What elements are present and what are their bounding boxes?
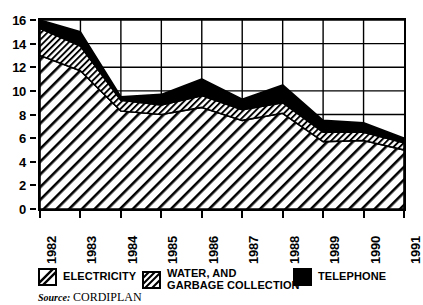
y-tick-label: 14 xyxy=(12,37,26,50)
x-tick-mark xyxy=(120,211,122,218)
y-tick-mark xyxy=(30,161,36,163)
plot-panel xyxy=(38,18,406,211)
x-tick-label: 1990 xyxy=(369,236,382,264)
stacked-area-svg xyxy=(40,20,404,209)
x-tick-mark xyxy=(322,211,324,218)
y-tick-mark xyxy=(30,137,36,139)
y-tick-label: 6 xyxy=(19,132,26,145)
source-label: Source: xyxy=(38,292,70,303)
legend-swatch-diagonal-hatch-dense-icon xyxy=(142,271,161,289)
source-value: CORDIPLAN xyxy=(73,290,142,304)
x-tick-mark xyxy=(160,211,162,218)
x-tick-mark xyxy=(282,211,284,218)
legend-label: TELEPHONE xyxy=(318,271,386,283)
x-tick-mark xyxy=(39,211,41,218)
y-tick-label: 8 xyxy=(19,108,26,121)
legend-item: ELECTRICITY xyxy=(38,268,136,286)
y-tick-label: 10 xyxy=(12,84,26,97)
x-tick-mark xyxy=(403,211,405,218)
x-tick-label: 1983 xyxy=(85,236,98,264)
y-tick-mark xyxy=(30,114,36,116)
y-tick-mark xyxy=(30,19,36,21)
chart-legend: ELECTRICITYWATER, AND GARBAGE COLLECTION… xyxy=(0,268,416,292)
y-tick-label: 2 xyxy=(19,179,26,192)
plot-area: 0246810121416 1982198319841985198 xyxy=(0,0,416,230)
x-tick-label: 1989 xyxy=(328,236,341,264)
y-tick-mark xyxy=(30,208,36,210)
legend-item: TELEPHONE xyxy=(293,268,386,286)
x-tick-label: 1986 xyxy=(207,236,220,264)
legend-item: WATER, AND GARBAGE COLLECTION xyxy=(142,268,300,291)
y-tick-mark xyxy=(30,43,36,45)
x-tick-label: 1984 xyxy=(126,236,139,264)
legend-label: ELECTRICITY xyxy=(63,271,136,283)
x-tick-label: 1988 xyxy=(288,236,301,264)
y-tick-mark xyxy=(30,90,36,92)
legend-label: WATER, AND GARBAGE COLLECTION xyxy=(167,268,300,291)
y-tick-mark xyxy=(30,184,36,186)
x-tick-mark xyxy=(79,211,81,218)
x-tick-label: 1985 xyxy=(166,236,179,264)
y-tick-mark xyxy=(30,66,36,68)
x-tick-label: 1987 xyxy=(247,236,260,264)
x-tick-label: 1991 xyxy=(409,236,422,264)
x-tick-mark xyxy=(363,211,365,218)
legend-swatch-solid-black-icon xyxy=(293,268,312,286)
x-tick-label: 1982 xyxy=(45,236,58,264)
y-tick-label: 16 xyxy=(12,14,26,27)
legend-swatch-diagonal-hatch-wide-icon xyxy=(38,268,57,286)
y-tick-label: 4 xyxy=(19,155,26,168)
x-tick-mark xyxy=(241,211,243,218)
y-axis: 0246810121416 xyxy=(0,0,34,230)
source-note: Source: CORDIPLAN xyxy=(38,290,142,305)
x-tick-mark xyxy=(201,211,203,218)
y-tick-label: 12 xyxy=(12,61,26,74)
